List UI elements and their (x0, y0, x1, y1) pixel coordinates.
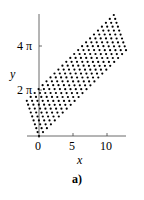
x-tick-label-0: 0 (35, 140, 41, 152)
lattice-dots (26, 14, 127, 137)
y-tick-label-4pi: 4 π (17, 40, 32, 52)
x-axis-label: x (77, 154, 82, 166)
plot-canvas (0, 0, 144, 200)
y-tick-label-2pi: 2 π (17, 84, 32, 96)
y-axis-label: y (10, 68, 15, 80)
x-tick-label-10: 10 (100, 140, 112, 152)
x-tick-label-5: 5 (69, 140, 75, 152)
figure-caption: a) (72, 173, 82, 185)
